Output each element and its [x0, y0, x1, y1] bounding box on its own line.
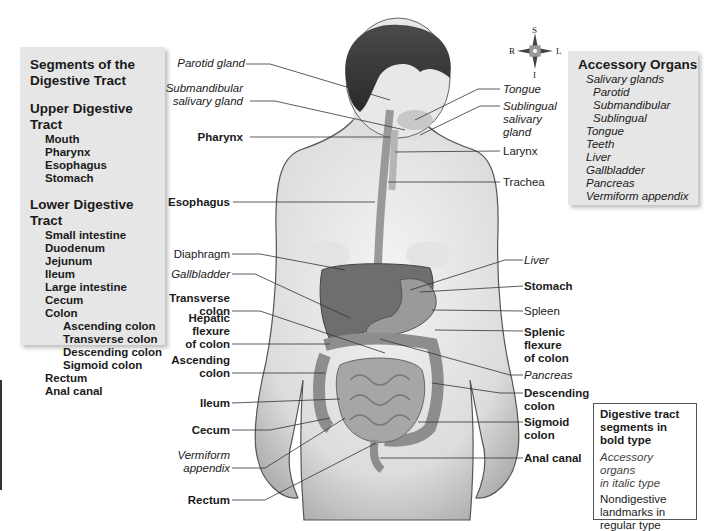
label-larynx: Larynx: [503, 145, 538, 158]
label-ileum: Ileum: [200, 397, 230, 410]
label-liver: Liver: [524, 254, 549, 267]
page-edge: [0, 380, 2, 490]
legend-italic-line1: Accessory organs: [600, 451, 690, 477]
accessory-item: Vermiform appendix: [586, 190, 697, 203]
label-splenic-flexure-line1: Splenic: [524, 326, 565, 339]
compass-superior: S: [532, 25, 537, 35]
legend-italic-line2: in italic type: [600, 477, 690, 490]
legend-regular-line2: landmarks in: [600, 506, 690, 519]
label-submandibular-line1: Submandibular: [166, 82, 243, 95]
label-descending-colon-line1: Descending: [524, 387, 589, 400]
label-gallbladder: Gallbladder: [171, 268, 230, 281]
salivary-item: Parotid: [593, 86, 697, 99]
colon-item: Ascending colon: [63, 320, 165, 333]
label-diaphragm: Diaphragm: [174, 248, 230, 261]
label-transverse-colon-line1: Transverse: [169, 292, 230, 305]
label-stomach: Stomach: [524, 280, 573, 293]
accessory-item: Teeth: [586, 138, 697, 151]
compass-right: R: [509, 46, 515, 56]
compass-inferior: I: [533, 70, 536, 80]
segment-item: Pharynx: [45, 146, 165, 159]
label-sublingual-line2: salivary: [503, 113, 542, 126]
legend-bold-line2: segments in: [600, 421, 690, 434]
trachea-tube: [392, 130, 395, 190]
accessory-title: Accessory Organs: [578, 57, 697, 73]
segment-item: Ileum: [45, 268, 165, 281]
accessory-item: Tongue: [586, 125, 697, 138]
segment-item: Small intestine: [45, 229, 165, 242]
label-appendix-line1: Vermiform: [177, 449, 230, 462]
label-splenic-flexure-line3: of colon: [524, 352, 569, 365]
label-sigmoid-colon-line2: colon: [524, 429, 555, 442]
label-cecum: Cecum: [192, 424, 230, 437]
label-tongue: Tongue: [503, 83, 541, 96]
legend-bold-line1: Digestive tract: [600, 408, 690, 421]
accessory-item: Pancreas: [586, 177, 697, 190]
accessory-organs-panel: Accessory Organs Salivary glands Parotid…: [568, 51, 698, 205]
segments-title-line2: Digestive Tract: [30, 73, 165, 89]
label-splenic-flexure-line2: flexure: [524, 339, 562, 352]
legend-regular-line1: Nondigestive: [600, 493, 690, 506]
label-anal-canal: Anal canal: [524, 452, 582, 465]
label-sigmoid-colon-line1: Sigmoid: [524, 416, 569, 429]
legend-bold-line3: bold type: [600, 434, 690, 447]
segment-item: Esophagus: [45, 159, 165, 172]
label-pancreas: Pancreas: [524, 369, 573, 382]
colon-item: Sigmoid colon: [63, 359, 165, 372]
legend-regular-line3: regular type: [600, 519, 690, 531]
label-hepatic-flexure-line3: of colon: [185, 338, 230, 351]
salivary-item: Sublingual: [593, 112, 697, 125]
compass-left: L: [556, 46, 562, 56]
segment-item: Jejunum: [45, 255, 165, 268]
segment-item: Large intestine: [45, 281, 165, 294]
segment-item: Colon: [45, 307, 165, 320]
colon-item: Descending colon: [63, 346, 165, 359]
label-sublingual-line1: Sublingual: [503, 100, 557, 113]
accessory-item: Liver: [586, 151, 697, 164]
label-hepatic-flexure-line2: flexure: [192, 325, 230, 338]
label-ascending-colon-line2: colon: [199, 367, 230, 380]
segment-item: Stomach: [45, 172, 165, 185]
label-pharynx: Pharynx: [198, 131, 243, 144]
type-legend: Digestive tract segments in bold type Ac…: [593, 403, 697, 520]
lower-tract-heading: Lower Digestive Tract: [30, 197, 165, 229]
label-trachea: Trachea: [503, 176, 545, 189]
upper-tract-heading: Upper Digestive Tract: [30, 101, 165, 133]
segment-item: Anal canal: [45, 385, 165, 398]
label-spleen: Spleen: [524, 305, 560, 318]
label-parotid-gland: Parotid gland: [177, 57, 245, 70]
segment-item: Mouth: [45, 133, 165, 146]
breast-right: [406, 241, 450, 269]
salivary-item: Submandibular: [593, 99, 697, 112]
label-esophagus: Esophagus: [168, 196, 230, 209]
accessory-item: Gallbladder: [586, 164, 697, 177]
label-rectum: Rectum: [188, 494, 230, 507]
segments-panel: Segments of the Digestive Tract Upper Di…: [20, 47, 165, 345]
segments-title-line1: Segments of the: [30, 57, 165, 73]
segment-item: Cecum: [45, 294, 165, 307]
colon-item: Transverse colon: [63, 333, 165, 346]
label-hepatic-flexure-line1: Hepatic: [188, 312, 230, 325]
label-descending-colon-line2: colon: [524, 400, 555, 413]
segment-item: Duodenum: [45, 242, 165, 255]
label-ascending-colon-line1: Ascending: [171, 354, 230, 367]
compass-rose: [517, 33, 553, 69]
segment-item: Rectum: [45, 372, 165, 385]
label-sublingual-line3: gland: [503, 126, 531, 139]
label-appendix-line2: appendix: [183, 462, 230, 475]
accessory-item: Salivary glands: [586, 73, 697, 86]
label-submandibular-line2: salivary gland: [173, 95, 243, 108]
